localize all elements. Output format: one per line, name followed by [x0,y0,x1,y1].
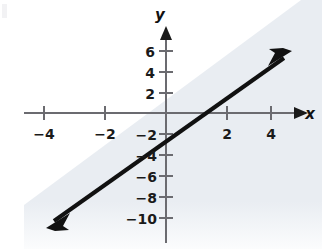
y-tick-label--2: −2 [136,127,157,143]
x-tick-label-4: 4 [266,126,276,142]
x-tick-label-2: 2 [222,126,232,142]
y-axis-label: y [155,6,166,24]
y-tick-label--4: −4 [136,148,158,164]
x-axis-label: x [304,105,316,123]
y-tick-label-4: 4 [145,65,155,81]
coordinate-plane-figure: −4 −2 2 4 6 4 2 −2 −4 −6 −8 −10 x y [0,0,322,249]
x-tick-label--2: −2 [94,126,115,142]
y-tick-label--6: −6 [136,169,157,185]
y-tick-label-2: 2 [145,86,155,102]
graph-canvas: −4 −2 2 4 6 4 2 −2 −4 −6 −8 −10 x y [0,0,322,249]
y-tick-label-6: 6 [145,44,155,60]
y-tick-label--10: −10 [126,211,157,227]
x-tick-label--4: −4 [33,126,55,142]
y-tick-label--8: −8 [136,190,157,206]
y-axis-arrowhead [160,26,172,40]
